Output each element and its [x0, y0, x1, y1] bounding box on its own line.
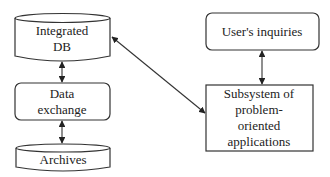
- subsystem-label-2: problem-: [235, 102, 283, 117]
- node-integrated-db: Integrated DB: [15, 14, 110, 62]
- subsystem-label-3: oriented: [238, 118, 281, 133]
- archives-label: Archives: [40, 152, 87, 167]
- data-exchange-label-2: exchange: [37, 102, 86, 117]
- subsystem-label-4: applications: [228, 134, 291, 149]
- subsystem-label-1: Subsystem of: [224, 86, 295, 101]
- node-data-exchange: Data exchange: [15, 83, 110, 120]
- node-subsystem: Subsystem of problem- oriented applicati…: [206, 85, 313, 151]
- integrated-db-label-1: Integrated: [36, 23, 89, 38]
- data-exchange-label-1: Data: [50, 86, 75, 101]
- node-archives: Archives: [16, 144, 110, 171]
- node-users-inquiries: User's inquiries: [206, 13, 319, 50]
- diagram-canvas: Integrated DB Data exchange Archives Use…: [0, 0, 330, 177]
- integrated-db-label-2: DB: [53, 39, 71, 54]
- users-inquiries-label: User's inquiries: [222, 24, 303, 39]
- edge-db-subsystem: [112, 37, 205, 113]
